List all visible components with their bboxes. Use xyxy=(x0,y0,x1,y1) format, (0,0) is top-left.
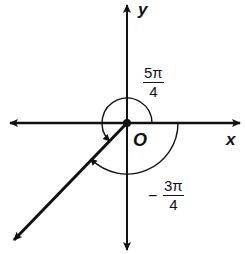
negative-angle-label: 3π 4 xyxy=(163,178,184,213)
positive-angle-denominator: 4 xyxy=(149,83,157,100)
terminal-ray xyxy=(14,123,127,240)
coordinate-plane xyxy=(0,0,245,254)
positive-angle-label: 5π 4 xyxy=(143,65,164,100)
positive-angle-numerator: 5π xyxy=(143,65,164,83)
negative-angle-denominator: 4 xyxy=(169,196,177,213)
origin-label: O xyxy=(133,130,147,151)
origin-point xyxy=(123,119,131,127)
negative-angle-numerator: 3π xyxy=(163,178,184,196)
x-axis-label: x xyxy=(226,130,235,150)
negative-angle-sign: − xyxy=(148,187,157,205)
y-axis-label: y xyxy=(138,0,147,20)
